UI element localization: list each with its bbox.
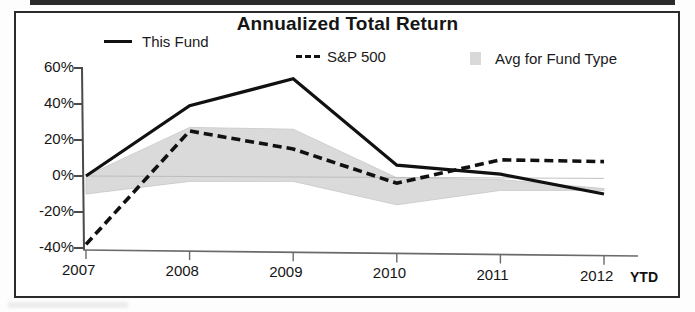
x-axis-label: 2007: [62, 261, 95, 278]
x-axis-label: 2009: [269, 263, 302, 280]
y-axis-label: 20%: [18, 130, 74, 147]
chart-screenshot: Annualized Total Return This Fund S&P 50…: [0, 0, 695, 312]
x-axis-label: 2012: [580, 267, 613, 284]
y-axis-label: -20%: [18, 202, 74, 219]
y-axis-label: 40%: [18, 94, 74, 111]
chart-canvas: [0, 0, 695, 312]
x-axis-line: [83, 250, 638, 256]
plot-area: [0, 0, 695, 312]
y-axis-label: 0%: [18, 166, 74, 183]
x-axis-label: 2011: [476, 266, 508, 283]
y-axis-label: -40%: [18, 238, 74, 255]
y-axis-line: [82, 68, 84, 250]
y-axis-label: 60%: [18, 58, 74, 75]
x-axis-ytd-label: YTD: [630, 269, 658, 285]
x-axis-label: 2008: [166, 262, 199, 279]
x-axis-label: 2010: [373, 264, 406, 281]
